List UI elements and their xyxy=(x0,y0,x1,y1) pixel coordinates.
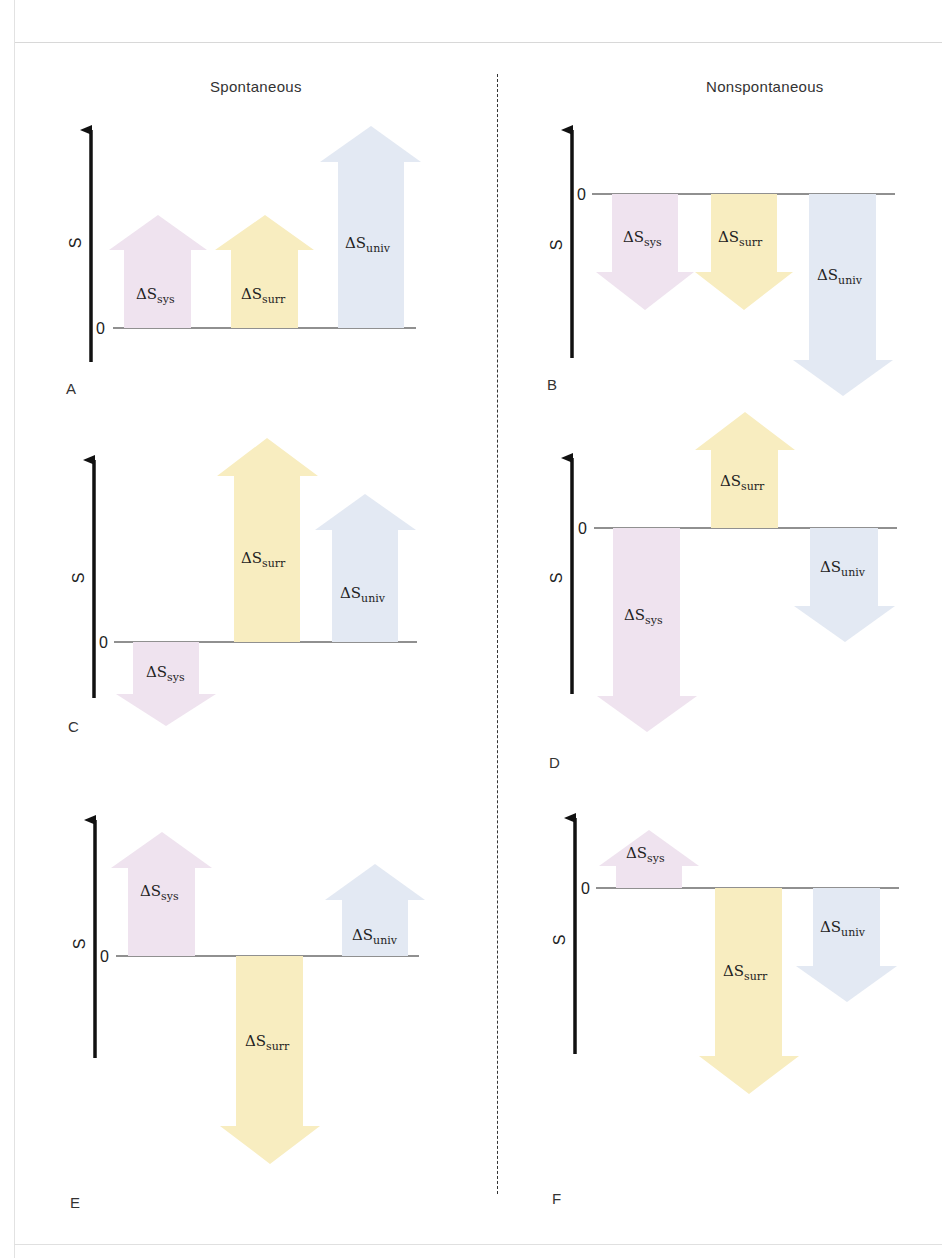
entropy-diagram: S 0 ΔSsys ΔSsurr ΔSuniv A S 0 ΔSsys ΔSsu… xyxy=(0,0,942,1258)
delta-s-univ-arrow xyxy=(793,194,893,396)
delta-s-surr-arrow xyxy=(215,215,314,328)
delta-s-univ-arrow xyxy=(315,494,416,642)
delta-s-surr-arrow xyxy=(695,194,793,310)
axis-label-s: S xyxy=(71,939,88,950)
axis-label-s: S xyxy=(548,573,565,584)
panel-d: S 0 ΔSsys ΔSsurr ΔSuniv D xyxy=(548,412,897,771)
panel-letter-c: C xyxy=(68,718,79,735)
axis-label-s: S xyxy=(551,935,568,946)
delta-s-univ-arrow xyxy=(796,888,897,1002)
panel-e: S 0 ΔSsys ΔSsurr ΔSuniv E xyxy=(70,820,425,1211)
panel-letter-f: F xyxy=(552,1190,561,1207)
panel-f: S 0 ΔSsys ΔSsurr ΔSuniv F xyxy=(551,818,899,1207)
zero-label: 0 xyxy=(578,520,587,537)
delta-s-surr-arrow xyxy=(217,438,318,642)
axis-label-s: S xyxy=(548,240,565,251)
delta-s-univ-arrow xyxy=(320,126,421,328)
panel-letter-b: B xyxy=(547,376,557,393)
panel-b: S 0 ΔSsys ΔSsurr ΔSuniv B xyxy=(547,130,895,396)
delta-s-sys-arrow xyxy=(597,528,697,732)
axis-label-s: S xyxy=(67,238,84,249)
zero-label: 0 xyxy=(100,948,109,965)
panel-letter-a: A xyxy=(66,380,76,397)
panel-a: S 0 ΔSsys ΔSsurr ΔSuniv A xyxy=(66,126,421,397)
zero-label: 0 xyxy=(581,880,590,897)
panel-letter-d: D xyxy=(549,754,560,771)
zero-label: 0 xyxy=(99,634,108,651)
delta-s-sys-arrow xyxy=(596,194,694,310)
panel-c: S 0 ΔSsys ΔSsurr ΔSuniv C xyxy=(68,438,417,735)
delta-s-sys-arrow xyxy=(109,215,207,328)
zero-label: 0 xyxy=(577,186,586,203)
delta-s-surr-arrow xyxy=(220,956,320,1164)
delta-s-sys-arrow xyxy=(116,642,216,726)
axis-label-s: S xyxy=(70,573,87,584)
delta-s-surr-arrow xyxy=(695,412,795,528)
delta-s-univ-arrow xyxy=(794,528,895,642)
zero-label: 0 xyxy=(96,320,105,337)
panel-letter-e: E xyxy=(70,1194,80,1211)
delta-s-surr-arrow xyxy=(699,888,799,1094)
